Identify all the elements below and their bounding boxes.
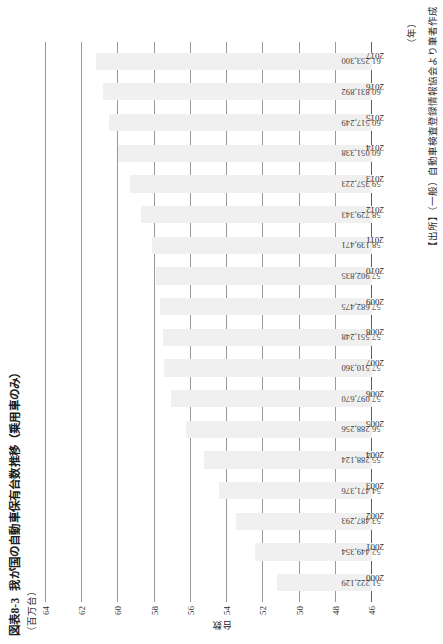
bar-slot[interactable]: 52,449,354 <box>46 537 372 568</box>
value-tick-label: 46 <box>367 606 377 632</box>
bar[interactable] <box>160 298 372 315</box>
figure-number: 図表8-3 <box>9 598 21 636</box>
category-slot: 2013 <box>372 169 398 200</box>
category-axis-labels: 2000200120022003200420052006200720082009… <box>372 42 398 602</box>
category-label: 2014 <box>366 143 384 153</box>
category-slot: 2012 <box>372 199 398 230</box>
category-slot: 2010 <box>372 261 398 292</box>
value-tick-label: 62 <box>77 606 87 632</box>
category-slot: 2014 <box>372 138 398 169</box>
bar[interactable] <box>141 206 372 223</box>
category-label: 2004 <box>366 450 384 460</box>
category-slot: 2007 <box>372 353 398 384</box>
source-note: 【出所】（一般）自動車検査登録情報協会より筆者作成 <box>425 6 439 251</box>
bar-slot[interactable]: 53,487,293 <box>46 506 372 537</box>
value-tick-label: 58 <box>150 606 160 632</box>
category-label: 2009 <box>366 297 384 307</box>
value-tick-label: 54 <box>222 606 232 632</box>
category-slot: 2000 <box>372 567 398 598</box>
bar-slot[interactable]: 57,902,835 <box>46 261 372 292</box>
page-inner: 図表8-3我が国の自動車保有台数推移（乗用車のみ） （百万台） 台数 （年） 4… <box>0 0 443 644</box>
bar-slot[interactable]: 54,471,376 <box>46 475 372 506</box>
category-label: 2012 <box>366 205 384 215</box>
category-label: 2001 <box>366 542 384 552</box>
bar-slot[interactable]: 56,288,256 <box>46 414 372 445</box>
bar-slot[interactable]: 57,551,248 <box>46 322 372 353</box>
rotated-page: 図表8-3我が国の自動車保有台数推移（乗用車のみ） （百万台） 台数 （年） 4… <box>0 0 443 644</box>
bar-slot[interactable]: 57,682,475 <box>46 291 372 322</box>
category-label: 2015 <box>366 113 384 123</box>
bar-slot[interactable]: 61,253,300 <box>46 46 372 77</box>
bar[interactable] <box>103 83 372 100</box>
category-label: 2003 <box>366 481 384 491</box>
bar-slot[interactable]: 55,288,124 <box>46 445 372 476</box>
value-tick-label: 64 <box>41 606 51 632</box>
bar[interactable] <box>118 145 372 162</box>
value-tick-label: 50 <box>295 606 305 632</box>
bar-slot[interactable]: 60,517,249 <box>46 107 372 138</box>
category-slot: 2017 <box>372 46 398 77</box>
category-label: 2008 <box>366 327 384 337</box>
value-tick-label: 60 <box>113 606 123 632</box>
category-slot: 2002 <box>372 506 398 537</box>
bar-series: 51,222,12952,449,35453,487,29354,471,376… <box>46 42 372 602</box>
category-slot: 2008 <box>372 322 398 353</box>
category-label: 2010 <box>366 266 384 276</box>
value-tick-label: 56 <box>186 606 196 632</box>
unit-label: （百万台） <box>24 586 38 636</box>
category-slot: 2009 <box>372 291 398 322</box>
bar[interactable] <box>152 237 372 254</box>
category-slot: 2003 <box>372 475 398 506</box>
bar-slot[interactable]: 60,051,338 <box>46 138 372 169</box>
bar-slot[interactable]: 59,357,223 <box>46 169 372 200</box>
figure-title-text: 我が国の自動車保有台数推移（乗用車のみ） <box>9 367 21 591</box>
category-label: 2013 <box>366 174 384 184</box>
value-tick-label: 52 <box>258 606 268 632</box>
category-label: 2002 <box>366 511 384 521</box>
category-label: 2000 <box>366 573 384 583</box>
value-tick-label: 48 <box>331 606 341 632</box>
category-slot: 2011 <box>372 230 398 261</box>
bar-slot[interactable]: 57,510,360 <box>46 353 372 384</box>
category-label: 2007 <box>366 358 384 368</box>
category-slot: 2001 <box>372 537 398 568</box>
bar[interactable] <box>156 267 372 284</box>
figure-title: 図表8-3我が国の自動車保有台数推移（乗用車のみ） <box>6 367 22 636</box>
bar-slot[interactable]: 58,139,471 <box>46 230 372 261</box>
bar-slot[interactable]: 60,831,892 <box>46 77 372 108</box>
category-slot: 2004 <box>372 445 398 476</box>
category-slot: 2005 <box>372 414 398 445</box>
category-label: 2006 <box>366 389 384 399</box>
category-label: 2016 <box>366 82 384 92</box>
bar[interactable] <box>96 53 372 70</box>
bar-slot[interactable]: 57,097,670 <box>46 383 372 414</box>
category-slot: 2006 <box>372 383 398 414</box>
category-slot: 2016 <box>372 77 398 108</box>
category-label: 2017 <box>366 51 384 61</box>
category-axis-caption: （年） <box>404 18 418 48</box>
category-label: 2011 <box>366 235 384 245</box>
bar-slot[interactable]: 51,222,129 <box>46 567 372 598</box>
bar[interactable] <box>130 175 372 192</box>
chart-container: （百万台） 台数 （年） 46485052545658606264 51,222… <box>46 42 398 602</box>
plot-area: 46485052545658606264 51,222,12952,449,35… <box>46 42 372 602</box>
category-label: 2005 <box>366 419 384 429</box>
category-slot: 2015 <box>372 107 398 138</box>
bar-slot[interactable]: 58,729,343 <box>46 199 372 230</box>
bar[interactable] <box>109 114 372 131</box>
